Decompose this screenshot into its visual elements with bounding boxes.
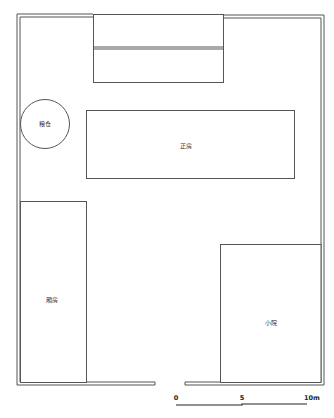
small-yard: 小院 <box>221 245 322 383</box>
side-room: 厢房 <box>21 202 87 383</box>
scale-bar: 0 5 10m <box>174 394 320 405</box>
small-yard-label: 小院 <box>265 319 277 327</box>
granary-label: 粮仓 <box>39 120 51 128</box>
granary: 粮仓 <box>21 100 70 149</box>
side-room-label: 厢房 <box>46 296 58 304</box>
scale-label-5: 5 <box>240 394 245 402</box>
main-hall-label: 正房 <box>180 142 192 150</box>
north-building <box>94 15 224 83</box>
scale-label-0: 0 <box>174 394 179 402</box>
main-hall: 正房 <box>87 111 295 179</box>
site-plan: 粮仓 正房 厢房 小院 0 5 10m <box>0 0 334 418</box>
scale-label-10m: 10m <box>304 394 320 402</box>
